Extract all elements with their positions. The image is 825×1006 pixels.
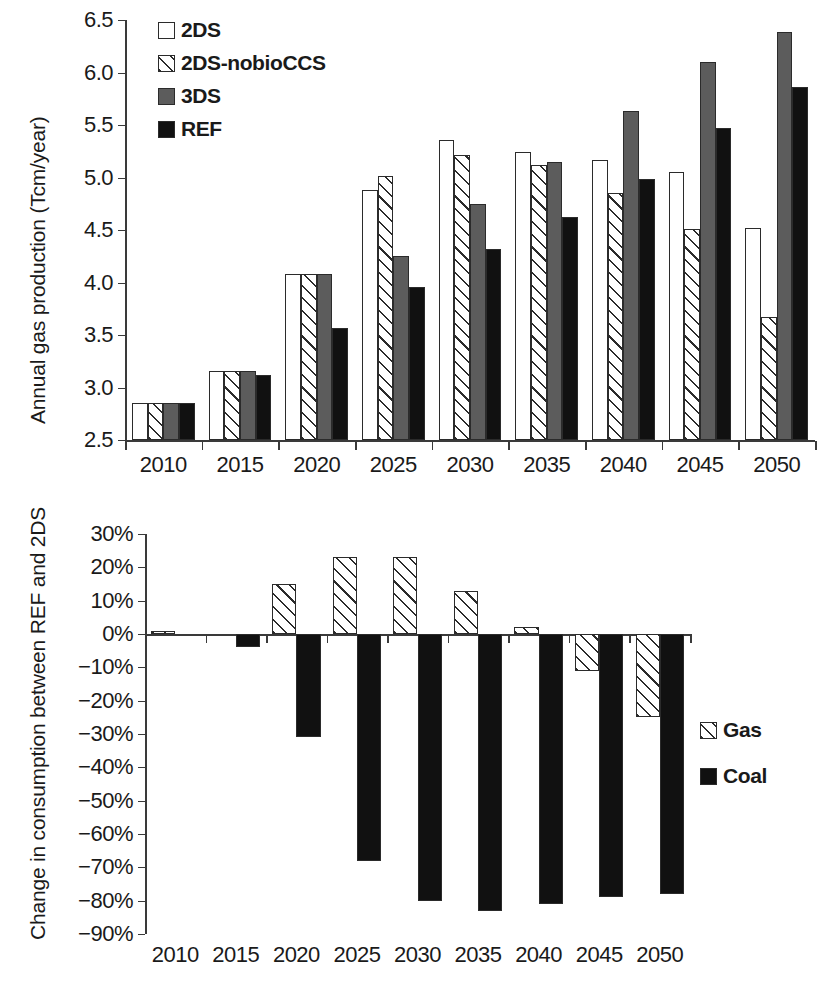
y-tick-label: −90% xyxy=(0,921,133,947)
bar-coal-2030 xyxy=(418,634,442,901)
x-tick-mark xyxy=(738,441,740,450)
x-tick-mark xyxy=(508,441,510,450)
legend-item-2ds: 2DS xyxy=(158,18,326,42)
bar-2ds-2015 xyxy=(209,371,225,440)
bar-gas-2020 xyxy=(272,584,296,634)
bar-2ds-2050 xyxy=(745,228,761,440)
bar-3ds-2015 xyxy=(240,371,256,440)
bar-coal-2025 xyxy=(357,634,381,861)
x-tick-mark xyxy=(202,441,204,450)
bar-ref-2045 xyxy=(716,128,732,440)
bar-2ds-nobioccs-2050 xyxy=(761,317,777,440)
y-tick-label: 4.0 xyxy=(0,270,113,296)
y-tick-mark xyxy=(118,125,125,126)
y-tick-label: −30% xyxy=(0,721,133,747)
y-tick-label: 4.5 xyxy=(0,217,113,243)
x-tick-mark xyxy=(432,441,434,450)
bar-3ds-2025 xyxy=(393,256,409,440)
legend-swatch-icon xyxy=(700,768,717,785)
x-tick-mark xyxy=(585,441,587,450)
x-tick-mark xyxy=(278,441,280,450)
y-tick-label: −50% xyxy=(0,788,133,814)
bar-gas-2045 xyxy=(575,634,599,671)
plot-area-bottom xyxy=(145,534,690,934)
y-tick-mark xyxy=(118,230,125,231)
bar-3ds-2040 xyxy=(623,111,639,440)
bar-coal-2050 xyxy=(660,634,684,894)
bar-3ds-2045 xyxy=(700,62,716,440)
bar-2ds-nobioccs-2035 xyxy=(531,165,547,440)
x-tick-mark xyxy=(145,634,147,643)
y-tick-label: −80% xyxy=(0,888,133,914)
y-tick-label: 6.5 xyxy=(0,7,113,33)
y-tick-mark xyxy=(138,734,145,735)
x-tick-mark xyxy=(355,441,357,450)
y-tick-label: −70% xyxy=(0,854,133,880)
bar-ref-2015 xyxy=(256,375,272,440)
figure-root: Annual gas production (Tcm/year) 2.53.03… xyxy=(0,0,825,1006)
bar-2ds-nobioccs-2025 xyxy=(378,176,394,440)
legend-item-3ds: 3DS xyxy=(158,84,326,108)
bar-coal-2015 xyxy=(236,634,260,647)
y-tick-label: 5.5 xyxy=(0,112,113,138)
legend-label: 3DS xyxy=(181,84,221,108)
y-tick-mark xyxy=(138,834,145,835)
bar-ref-2025 xyxy=(409,287,425,440)
legend-swatch-icon xyxy=(158,22,175,39)
bar-coal-2035 xyxy=(478,634,502,911)
y-tick-label: 20% xyxy=(0,554,133,580)
x-tick-mark xyxy=(508,634,510,643)
x-tick-mark xyxy=(125,441,127,450)
y-tick-mark xyxy=(118,73,125,74)
bar-2ds-2030 xyxy=(439,140,455,440)
x-tick-mark xyxy=(815,441,817,450)
legend-label: Coal xyxy=(723,764,767,788)
y-tick-mark xyxy=(118,283,125,284)
bar-coal-2045 xyxy=(599,634,623,897)
bar-gas-2030 xyxy=(393,557,417,634)
bar-2ds-2010 xyxy=(132,403,148,440)
legend-label: REF xyxy=(181,117,222,141)
bar-2ds-2045 xyxy=(669,172,685,440)
y-tick-mark xyxy=(138,934,145,935)
legend-swatch-icon xyxy=(158,88,175,105)
bar-2ds-2040 xyxy=(592,160,608,440)
legend-swatch-icon xyxy=(158,55,175,72)
y-tick-mark xyxy=(118,178,125,179)
x-tick-label: 2050 xyxy=(732,452,822,478)
bar-2ds-nobioccs-2040 xyxy=(608,193,624,440)
legend-label: 2DS xyxy=(181,18,221,42)
y-tick-label: 2.5 xyxy=(0,427,113,453)
legend-item-coal: Coal xyxy=(700,764,767,788)
y-tick-mark xyxy=(138,701,145,702)
y-tick-mark xyxy=(138,634,145,635)
legend-item-ref: REF xyxy=(158,117,326,141)
y-tick-mark xyxy=(138,534,145,535)
bar-3ds-2050 xyxy=(777,32,793,440)
x-tick-label: 2050 xyxy=(615,942,705,968)
chart-panel-change-in-consumption: Change in consumption between REF and 2D… xyxy=(0,522,825,1006)
x-tick-mark xyxy=(266,634,268,643)
y-tick-label: 0% xyxy=(0,621,133,647)
legend-item-gas: Gas xyxy=(700,718,767,742)
y-tick-label: −40% xyxy=(0,754,133,780)
bar-ref-2035 xyxy=(562,217,578,440)
bar-3ds-2010 xyxy=(163,403,179,440)
y-tick-mark xyxy=(118,20,125,21)
bar-2ds-2035 xyxy=(515,152,531,440)
x-axis-line-top xyxy=(125,440,815,442)
bar-2ds-nobioccs-2010 xyxy=(148,403,164,440)
x-tick-mark xyxy=(387,634,389,643)
y-tick-mark xyxy=(118,388,125,389)
bar-2ds-2020 xyxy=(285,274,301,440)
y-tick-mark xyxy=(138,567,145,568)
y-tick-mark xyxy=(138,867,145,868)
bar-gas-2040 xyxy=(514,627,538,634)
bar-ref-2050 xyxy=(792,87,808,440)
bar-coal-2040 xyxy=(539,634,563,904)
y-tick-mark xyxy=(118,335,125,336)
bar-gas-2025 xyxy=(333,557,357,634)
legend-top: 2DS2DS-nobioCCS3DSREF xyxy=(158,18,326,150)
bar-ref-2030 xyxy=(486,249,502,440)
bar-gas-2035 xyxy=(454,591,478,634)
